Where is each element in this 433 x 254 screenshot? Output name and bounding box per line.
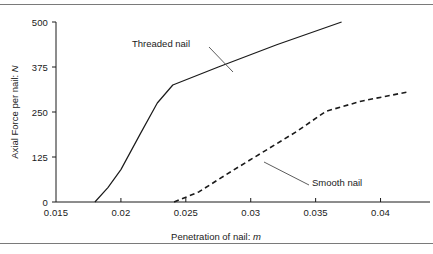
x-axis-tick-label: 0.025 — [174, 207, 198, 218]
leader-line-threaded-nail — [209, 47, 233, 72]
x-axis-tick-label: 0.04 — [371, 207, 390, 218]
y-axis-title-text: Axial Force per nail: — [9, 72, 20, 159]
x-axis-title: Penetration of nail: m — [171, 231, 261, 242]
y-axis-ticks — [52, 22, 56, 202]
x-axis-title-text: Penetration of nail: — [171, 231, 253, 242]
x-axis-tick-label: 0.015 — [44, 207, 68, 218]
y-axis-title: Axial Force per nail: N — [9, 65, 20, 158]
x-axis-tick-label: 0.035 — [303, 207, 327, 218]
x-axis-ticks — [121, 198, 381, 202]
series-line-threaded-nail — [95, 22, 342, 202]
y-axis-tick-label: 125 — [22, 152, 48, 163]
series-label-threaded-nail: Threaded nail — [132, 38, 190, 49]
y-axis-tick-label: 500 — [22, 17, 48, 28]
y-axis-tick-label: 375 — [22, 62, 48, 73]
y-axis-tick-label: 0 — [22, 197, 48, 208]
y-axis-tick-label: 250 — [22, 107, 48, 118]
x-axis-tick-label: 0.02 — [111, 207, 130, 218]
x-axis-title-symbol: m — [253, 231, 261, 242]
x-axis-tick-label: 0.03 — [241, 207, 260, 218]
series-label-smooth-nail: Smooth nail — [312, 177, 362, 188]
figure-container: 0125250375500 0.0150.020.0250.030.0350.0… — [0, 0, 433, 254]
series-line-smooth-nail — [174, 92, 406, 202]
leader-line-smooth-nail — [264, 162, 309, 185]
y-axis-title-symbol: N — [9, 65, 20, 72]
